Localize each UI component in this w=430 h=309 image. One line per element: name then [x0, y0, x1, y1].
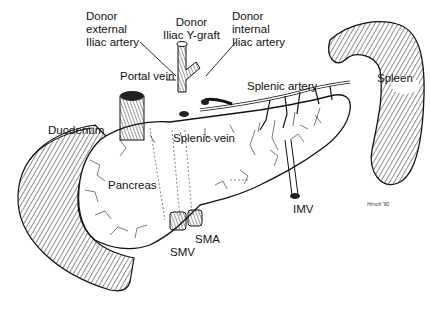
pancreas-shape	[79, 95, 351, 249]
label-donor-external-iliac: Donor external Iliac artery	[86, 10, 139, 49]
label-imv: IMV	[293, 203, 313, 216]
label-smv: SMV	[170, 246, 195, 259]
label-line: Donor	[232, 10, 285, 23]
label-duodenum: Duodenum	[48, 124, 104, 137]
label-line: Iliac artery	[86, 36, 139, 49]
anatomy-illustration	[0, 0, 430, 309]
label-line: Donor	[86, 10, 139, 23]
label-line: internal	[232, 23, 285, 36]
smv-sma-stumps	[170, 210, 202, 230]
label-sma: SMA	[195, 233, 220, 246]
label-spleen: Spleen	[377, 72, 413, 85]
label-donor-internal-iliac: Donor internal Iliac artery	[232, 10, 285, 49]
label-line: external	[86, 23, 139, 36]
label-line: Iliac artery	[232, 36, 285, 49]
label-portal-vein: Portal vein	[120, 70, 174, 83]
artist-signature: Hirsch '90	[367, 201, 389, 207]
label-splenic-artery: Splenic artery	[247, 80, 317, 93]
label-donor-iliac-y-graft: Donor Iliac Y-graft	[163, 16, 220, 42]
label-splenic-vein: Splenic vein	[173, 132, 235, 145]
label-line: Iliac Y-graft	[163, 29, 220, 42]
label-line: Donor	[163, 16, 220, 29]
label-pancreas: Pancreas	[108, 179, 157, 192]
portal-vein-shape	[120, 91, 144, 140]
